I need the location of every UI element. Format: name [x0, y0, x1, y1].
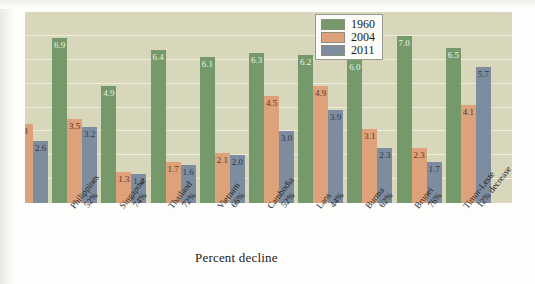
legend-label-2004: 2004	[351, 31, 375, 43]
bar-value-label: 6.9	[54, 40, 65, 50]
bar-value-label: 6.4	[152, 52, 163, 62]
bar-value-label: 1.7	[167, 164, 178, 174]
bar-value-label: 4.1	[463, 107, 474, 117]
bar-1960: 6.0	[347, 60, 362, 203]
bar-1960: 6.4	[151, 50, 166, 203]
plot-area: 32.66.93.53.24.91.31.26.41.71.66.12.12.0…	[25, 12, 512, 203]
bar-2004: 4.5	[264, 96, 279, 203]
bar-1960: 6.3	[249, 53, 264, 203]
legend-swatch-2004	[321, 32, 345, 43]
bar-value-label: 3.2	[84, 129, 95, 139]
page-top-margin-shading	[0, 0, 535, 9]
bar-value-label: 3.0	[281, 133, 292, 143]
bar-value-label: 4.9	[103, 88, 114, 98]
bar-2011: 2.6	[33, 141, 48, 203]
bar-value-label: 2.3	[379, 150, 390, 160]
legend-item-1960: 1960	[321, 18, 375, 30]
bar-value-label: 6.3	[251, 55, 262, 65]
bar-value-label: 4.5	[266, 98, 277, 108]
bar-1960: 6.1	[200, 57, 215, 203]
bar-value-label: 6.5	[448, 50, 459, 60]
bar-2004: 4.9	[313, 86, 328, 203]
bar-value-label: 6.2	[300, 57, 311, 67]
legend-label-2011: 2011	[351, 44, 375, 56]
bar-value-label: 1.7	[428, 164, 439, 174]
chart-legend: 1960 2004 2011	[315, 14, 383, 60]
page-left-margin-shading	[0, 0, 16, 284]
bar-value-label: 4.9	[315, 88, 326, 98]
gridline	[25, 59, 512, 60]
bar-value-label: 2.1	[217, 155, 228, 165]
legend-swatch-2011	[321, 45, 345, 56]
bar-1960: 7.0	[397, 36, 412, 203]
legend-item-2004: 2004	[321, 31, 375, 43]
bar-value-label: 3	[25, 126, 28, 136]
bar-value-label: 1.6	[182, 167, 193, 177]
bar-value-label: 3.9	[330, 112, 341, 122]
bar-1960: 6.2	[298, 55, 313, 203]
legend-item-2011: 2011	[321, 44, 375, 56]
bar-2004: 3	[25, 124, 33, 203]
bar-value-label: 3.5	[69, 121, 80, 131]
bar-value-label: 6.0	[349, 62, 360, 72]
gridline	[25, 35, 512, 36]
bar-value-label: 2.6	[35, 143, 46, 153]
bar-1960: 6.9	[52, 38, 67, 203]
bar-value-label: 5.7	[478, 69, 489, 79]
bar-value-label: 6.1	[202, 59, 213, 69]
gridline	[25, 83, 512, 84]
chart-page: 32.66.93.53.24.91.31.26.41.71.66.12.12.0…	[0, 0, 535, 284]
bar-value-label: 2.3	[413, 150, 424, 160]
legend-label-1960: 1960	[351, 18, 375, 30]
bar-value-label: 2.0	[232, 157, 243, 167]
bar-value-label: 1.3	[118, 174, 129, 184]
bar-value-label: 7.0	[398, 38, 409, 48]
bar-value-label: 3.1	[364, 131, 375, 141]
x-axis-caption: Percent decline	[195, 250, 278, 266]
legend-swatch-1960	[321, 19, 345, 30]
bar-1960: 6.5	[446, 48, 461, 203]
